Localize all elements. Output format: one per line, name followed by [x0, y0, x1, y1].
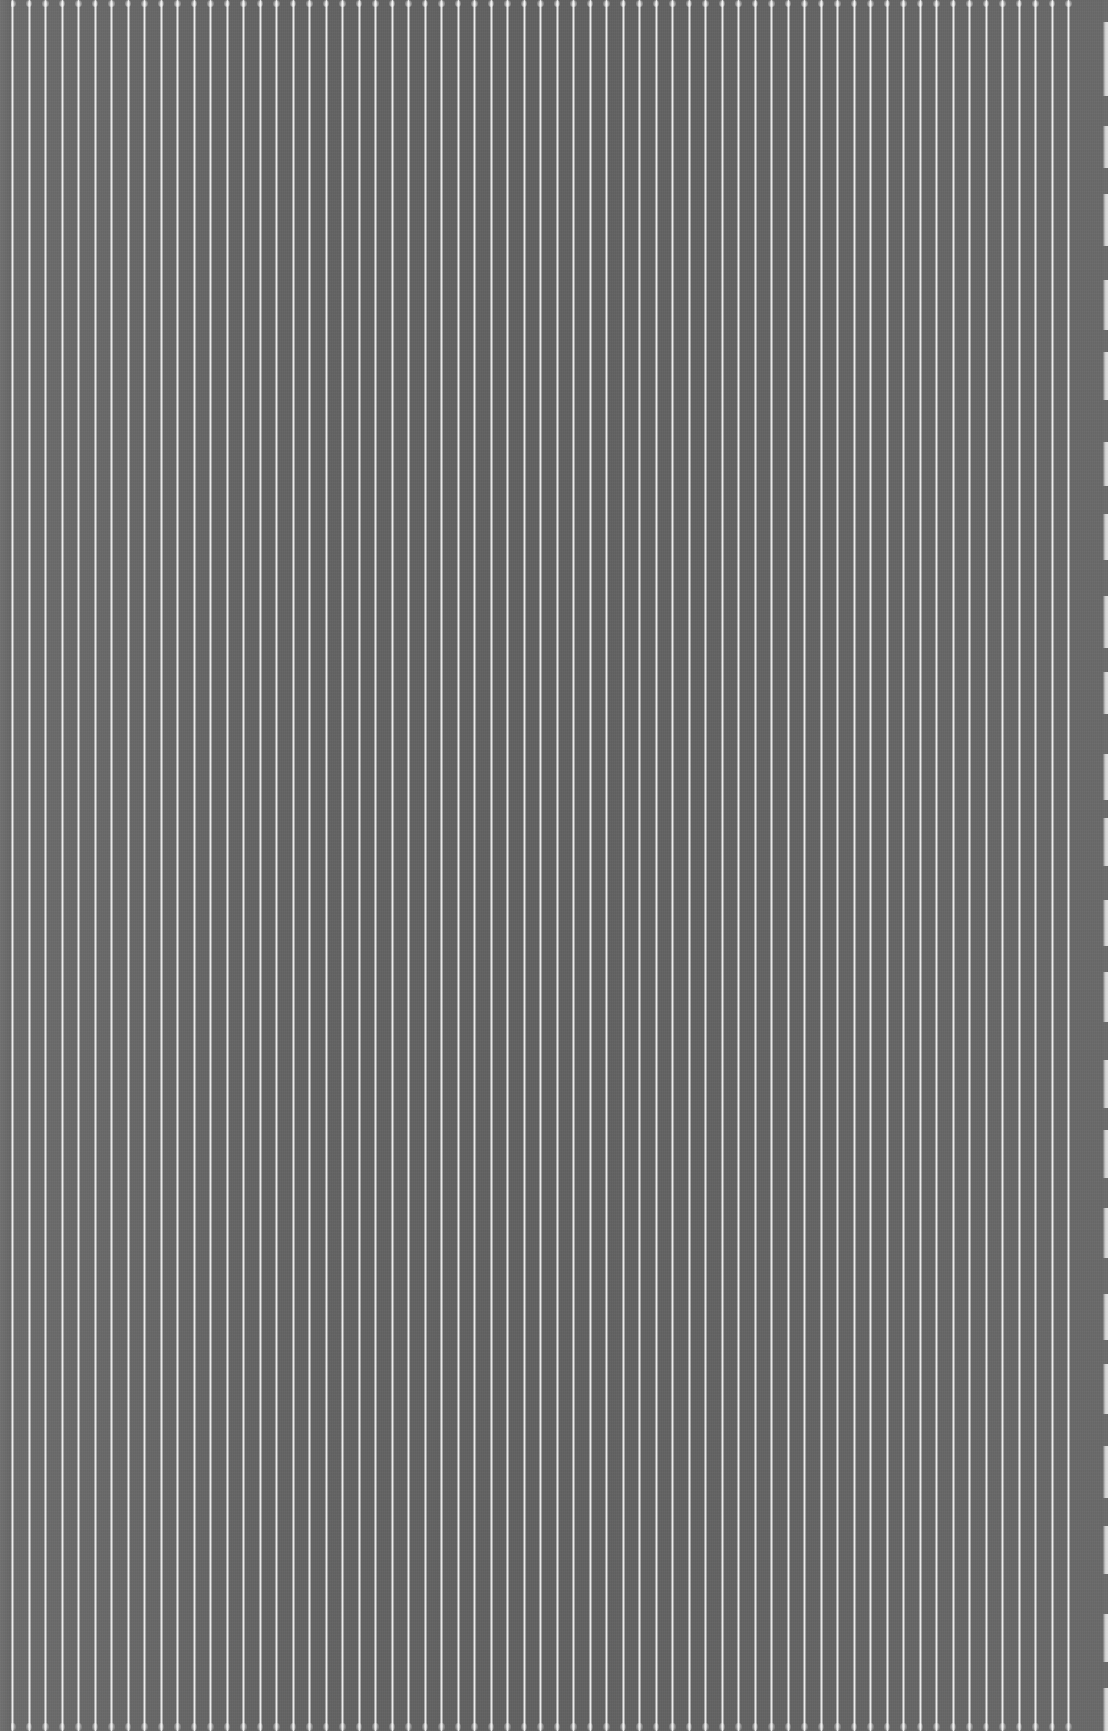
stripe: [787, 0, 790, 1731]
edge-notch: [1103, 1574, 1108, 1614]
stripe: [968, 0, 971, 1731]
stripe: [1051, 0, 1054, 1731]
stripe: [919, 0, 922, 1731]
stripe: [94, 0, 97, 1731]
stripe: [572, 0, 575, 1731]
stripe: [424, 0, 427, 1731]
stripe: [259, 0, 262, 1731]
stripe: [523, 0, 526, 1731]
stripe: [803, 0, 806, 1731]
edge-notch: [1103, 168, 1108, 194]
stripe: [77, 0, 80, 1731]
stripe: [391, 0, 394, 1731]
stripe: [985, 0, 988, 1731]
edge-notch: [1103, 714, 1108, 754]
stripe: [539, 0, 542, 1731]
edge-notch: [1103, 1340, 1108, 1364]
stripe: [374, 0, 377, 1731]
edge-notch: [1103, 1178, 1108, 1208]
stripe: [358, 0, 361, 1731]
edge-notch: [1103, 800, 1108, 818]
stripe: [556, 0, 559, 1731]
stripe: [44, 0, 47, 1731]
stripe: [440, 0, 443, 1731]
stripe: [11, 0, 14, 1731]
stripe: [589, 0, 592, 1731]
edge-notch: [1103, 400, 1108, 442]
stripe: [688, 0, 691, 1731]
stripe: [605, 0, 608, 1731]
texture-canvas: [0, 0, 1108, 1731]
stripe: [506, 0, 509, 1731]
stripe: [886, 0, 889, 1731]
stripe: [226, 0, 229, 1731]
edge-notch: [1103, 1414, 1108, 1446]
right-edge-band: [1103, 0, 1108, 1731]
stripe: [836, 0, 839, 1731]
stripe: [1001, 0, 1004, 1731]
stripe: [143, 0, 146, 1731]
edge-notch: [1103, 246, 1108, 280]
edge-notch: [1103, 1498, 1108, 1526]
edge-notch: [1103, 560, 1108, 596]
stripe: [275, 0, 278, 1731]
stripe: [869, 0, 872, 1731]
stripe: [341, 0, 344, 1731]
vertical-stripe-field: [0, 0, 1108, 1731]
stripe: [952, 0, 955, 1731]
stripe: [622, 0, 625, 1731]
stripe: [770, 0, 773, 1731]
stripe: [704, 0, 707, 1731]
stripe: [193, 0, 196, 1731]
stripe: [1018, 0, 1021, 1731]
left-margin-strip: [0, 0, 11, 1731]
stripe: [655, 0, 658, 1731]
stripe: [242, 0, 245, 1731]
edge-notch: [1103, 96, 1108, 126]
edge-notch: [1103, 1662, 1108, 1688]
edge-notch: [1103, 648, 1108, 672]
edge-notch: [1103, 1258, 1108, 1294]
stripe: [1067, 0, 1070, 1731]
stripe: [28, 0, 31, 1731]
stripe: [325, 0, 328, 1731]
stripe: [721, 0, 724, 1731]
stripe: [671, 0, 674, 1731]
stripe: [127, 0, 130, 1731]
stripe: [110, 0, 113, 1731]
edge-notch: [1103, 866, 1108, 900]
edge-notch: [1103, 1022, 1108, 1060]
edge-notch: [1103, 486, 1108, 514]
stripe: [160, 0, 163, 1731]
stripe: [1034, 0, 1037, 1731]
stripe: [292, 0, 295, 1731]
edge-notch: [1103, 946, 1108, 972]
stripe: [308, 0, 311, 1731]
stripe: [61, 0, 64, 1731]
stripe: [490, 0, 493, 1731]
stripe: [638, 0, 641, 1731]
stripe: [902, 0, 905, 1731]
stripe: [407, 0, 410, 1731]
edge-notch: [1103, 330, 1108, 352]
stripe: [935, 0, 938, 1731]
stripe: [457, 0, 460, 1731]
stripe: [209, 0, 212, 1731]
stripe: [473, 0, 476, 1731]
stripe: [737, 0, 740, 1731]
stripe: [853, 0, 856, 1731]
stripe: [176, 0, 179, 1731]
edge-notch: [1103, 0, 1108, 22]
stripe: [820, 0, 823, 1731]
stripe: [754, 0, 757, 1731]
edge-notch: [1103, 1108, 1108, 1130]
